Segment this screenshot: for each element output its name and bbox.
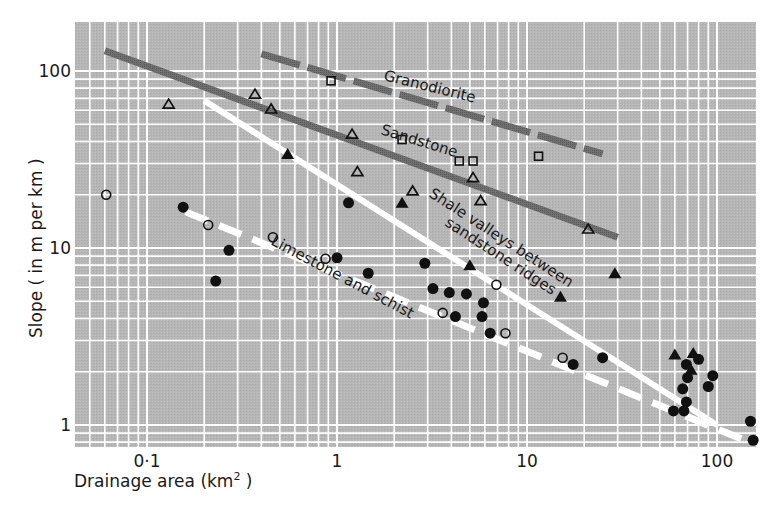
y-tick-label: 10 <box>49 238 71 258</box>
filled-circle-marker <box>707 370 718 381</box>
filled-circle-marker <box>568 359 579 370</box>
slope-vs-drainage-chart: 0·1110100 110100 Granodiorite Sandstone … <box>0 0 784 509</box>
filled-circle-marker <box>682 372 693 383</box>
x-axis-title: Drainage area (km2 ) <box>74 470 252 491</box>
filled-circle-marker <box>477 311 488 322</box>
x-tick-label: 0·1 <box>133 451 160 471</box>
filled-circle-marker <box>597 352 608 363</box>
filled-circle-marker <box>485 328 496 339</box>
filled-circle-marker <box>450 311 461 322</box>
filled-circle-marker <box>745 416 756 427</box>
y-tick-label: 1 <box>60 415 71 435</box>
filled-circle-marker <box>668 405 679 416</box>
filled-circle-marker <box>677 383 688 394</box>
filled-circle-marker <box>210 276 221 287</box>
filled-circle-marker <box>461 288 472 299</box>
x-axis-ticks: 0·1110100 <box>133 451 733 471</box>
filled-circle-marker <box>681 359 692 370</box>
filled-circle-marker <box>693 354 704 365</box>
filled-circle-marker <box>419 258 430 269</box>
filled-circle-marker <box>444 287 455 298</box>
filled-circle-marker <box>363 268 374 279</box>
x-tick-label: 100 <box>701 451 733 471</box>
y-tick-label: 100 <box>39 61 71 81</box>
filled-circle-marker <box>678 405 689 416</box>
filled-circle-marker <box>703 381 714 392</box>
x-tick-label: 10 <box>516 451 538 471</box>
x-tick-label: 1 <box>332 451 343 471</box>
y-axis-title: Slope ( in m per km ) <box>26 158 46 338</box>
filled-circle-marker <box>748 435 759 446</box>
filled-circle-marker <box>427 283 438 294</box>
filled-circle-marker <box>343 197 354 208</box>
filled-circle-marker <box>223 245 234 256</box>
filled-circle-marker <box>178 202 189 213</box>
filled-circle-marker <box>478 297 489 308</box>
